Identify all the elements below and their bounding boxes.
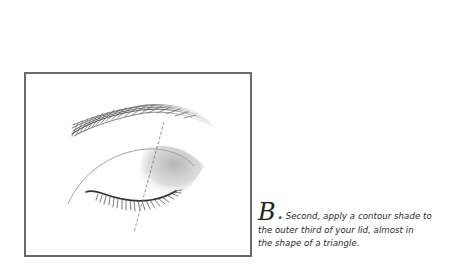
caption: B.Second, apply a contour shade to the o…	[258, 203, 458, 251]
eye-illustration	[26, 74, 250, 255]
step-letter: B	[258, 198, 276, 226]
step-punct: .	[278, 206, 283, 222]
caption-line-1: Second, apply a contour shade to	[286, 211, 432, 221]
contour-shade	[138, 146, 204, 199]
caption-line-2: the outer third of your lid, almost in	[258, 225, 414, 235]
caption-line-3: the shape of a triangle.	[258, 238, 360, 248]
eyebrow	[72, 105, 212, 136]
illustration-frame	[24, 72, 252, 257]
